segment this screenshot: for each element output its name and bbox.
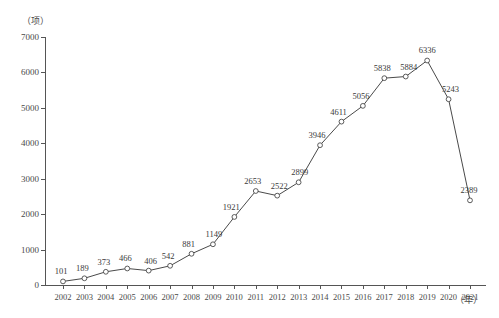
data-point-marker: [211, 242, 216, 247]
data-point-marker: [360, 103, 365, 108]
line-chart: （项） （年） 01000200030004000500060007000 20…: [0, 0, 499, 318]
data-point-marker: [82, 276, 87, 281]
data-point-label: 466: [119, 253, 132, 263]
data-point-marker: [253, 189, 258, 194]
data-point-marker: [146, 268, 151, 273]
data-point-marker: [425, 58, 430, 63]
data-point-marker: [296, 180, 301, 185]
data-point-marker: [382, 76, 387, 81]
data-point-label: 1149: [206, 229, 223, 239]
data-point-marker: [339, 119, 344, 124]
data-point-label: 5243: [442, 84, 459, 94]
x-axis-tick-label: 2006: [140, 292, 157, 302]
y-axis-tick-label: 1000: [21, 245, 39, 255]
x-axis-tick-label: 2013: [290, 292, 307, 302]
y-axis-tick-label: 3000: [21, 174, 39, 184]
x-axis-tick-label: 2015: [333, 292, 350, 302]
data-point-marker: [403, 74, 408, 79]
data-point-marker: [125, 266, 130, 271]
x-axis-tick-label: 2002: [55, 292, 72, 302]
data-point-label: 373: [97, 257, 110, 267]
data-point-label: 881: [182, 239, 195, 249]
data-point-marker: [189, 251, 194, 256]
x-axis-tick-label: 2012: [269, 292, 286, 302]
data-point-label: 1921: [223, 202, 240, 212]
x-axis-tick-label: 2011: [247, 292, 264, 302]
x-axis-tick-label: 2021: [462, 292, 479, 302]
y-axis-tick-label: 0: [35, 280, 40, 290]
x-axis-tick-label: 2003: [76, 292, 93, 302]
x-axis-tick-label: 2016: [354, 292, 371, 302]
x-axis-tick-label: 2008: [183, 292, 200, 302]
data-point-marker: [103, 269, 108, 274]
y-axis-tick-label: 7000: [21, 32, 39, 42]
data-point-label: 3946: [309, 130, 326, 140]
series-line: [45, 37, 486, 286]
plot-area: 01000200030004000500060007000 2002200320…: [45, 37, 485, 285]
x-axis-tick-label: 2009: [204, 292, 221, 302]
data-point-marker: [168, 263, 173, 268]
x-axis-tick-label: 2017: [376, 292, 393, 302]
data-point-label: 2653: [244, 176, 261, 186]
data-point-label: 2389: [461, 185, 478, 195]
data-point-marker: [275, 193, 280, 198]
x-axis-tick-label: 2019: [419, 292, 436, 302]
data-point-label: 2899: [291, 167, 308, 177]
data-point-label: 6336: [419, 45, 436, 55]
data-point-marker: [468, 198, 473, 203]
data-point-label: 189: [76, 263, 89, 273]
data-point-label: 542: [162, 251, 175, 261]
data-point-label: 5838: [374, 63, 391, 73]
data-point-label: 406: [144, 256, 157, 266]
y-axis-unit-label: （项）: [22, 14, 50, 27]
data-point-marker: [232, 215, 237, 220]
series-polyline: [63, 61, 470, 282]
data-point-label: 4611: [330, 107, 347, 117]
data-point-label: 5056: [352, 91, 369, 101]
data-point-label: 101: [55, 266, 68, 276]
x-axis-tick-label: 2005: [119, 292, 136, 302]
x-axis-tick-label: 2004: [97, 292, 114, 302]
data-point-label: 5884: [400, 62, 417, 72]
data-point-marker: [318, 143, 323, 148]
x-axis-tick-label: 2010: [226, 292, 243, 302]
x-axis-tick-label: 2020: [440, 292, 457, 302]
data-point-marker: [61, 279, 66, 284]
data-point-label: 2522: [271, 181, 288, 191]
x-axis-tick-label: 2014: [312, 292, 329, 302]
y-axis-tick-label: 6000: [21, 67, 39, 77]
x-axis-tick-label: 2007: [162, 292, 179, 302]
x-axis-tick-label: 2018: [397, 292, 414, 302]
data-point-marker: [446, 97, 451, 102]
y-axis-tick-label: 2000: [21, 209, 39, 219]
y-axis-tick-label: 5000: [21, 103, 39, 113]
y-axis-tick-label: 4000: [21, 138, 39, 148]
